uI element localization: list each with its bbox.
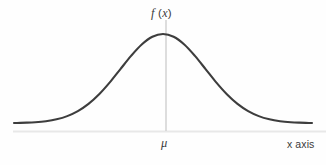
normal-density-curve: [14, 34, 312, 123]
x-axis-label: x axis: [287, 139, 314, 150]
mean-symbol-label: μ: [161, 137, 167, 150]
density-function-open-paren: (: [155, 7, 162, 19]
density-function-label: f (x): [151, 7, 172, 20]
density-function-close-paren: ): [168, 7, 172, 19]
normal-distribution-figure: f (x) μ x axis: [0, 0, 326, 165]
